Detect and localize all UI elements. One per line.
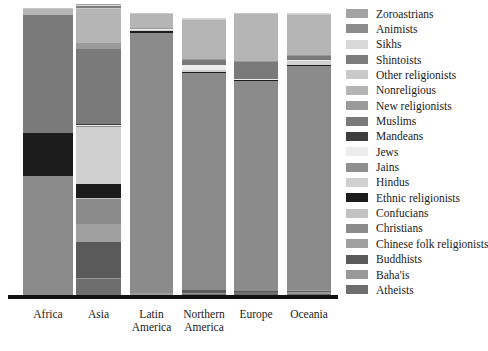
x-label-oceania: Oceania <box>279 308 339 321</box>
legend-swatch-icon <box>346 24 368 33</box>
legend-label: Chinese folk religionists <box>376 238 488 250</box>
segment-christians <box>182 73 226 290</box>
legend-label: Jews <box>376 146 398 158</box>
legend-swatch-icon <box>346 147 368 156</box>
segment-christians <box>287 66 331 290</box>
legend-item-christians[interactable]: Christians <box>344 221 423 236</box>
segment-nonreligious <box>130 14 173 28</box>
legend-swatch-icon <box>346 270 368 279</box>
legend-label: Christians <box>376 222 423 234</box>
legend-label: Confucians <box>376 207 428 219</box>
legend-item-new-religionists[interactable]: New religionists <box>344 98 452 113</box>
legend-label: Shintoists <box>376 54 421 66</box>
legend-swatch-icon <box>346 193 368 202</box>
legend-label: Baha'is <box>376 269 409 281</box>
legend-item-muslims[interactable]: Muslims <box>344 113 416 128</box>
legend-label: Zoroastrians <box>376 8 433 20</box>
segment-christians <box>234 81 278 291</box>
bar-asia <box>76 4 121 296</box>
segment-ethnic-religionists <box>76 184 121 199</box>
legend-item-chinese-folk-religionists[interactable]: Chinese folk religionists <box>344 236 488 251</box>
legend-swatch-icon <box>346 117 368 126</box>
legend-label: Jains <box>376 161 399 173</box>
chart-legend: ZoroastriansAnimistsSikhsShintoistsOther… <box>344 0 484 351</box>
bars-container <box>0 0 340 296</box>
legend-label: Buddhists <box>376 253 422 265</box>
legend-swatch-icon <box>346 70 368 79</box>
legend-label: New religionists <box>376 100 452 112</box>
legend-label: Muslims <box>376 115 416 127</box>
legend-item-jains[interactable]: Jains <box>344 160 399 175</box>
legend-label: Ethnic religionists <box>376 192 460 204</box>
segment-nonreligious <box>182 20 226 59</box>
legend-label: Nonreligious <box>376 84 436 96</box>
legend-swatch-icon <box>346 285 368 294</box>
legend-swatch-icon <box>346 224 368 233</box>
segment-buddhists <box>76 242 121 279</box>
x-label-asia: Asia <box>68 308 129 321</box>
legend-swatch-icon <box>346 209 368 218</box>
legend-item-animists[interactable]: Animists <box>344 21 418 36</box>
segment-hindus <box>76 127 121 184</box>
bar-africa <box>23 8 73 296</box>
segment-nonreligious <box>287 15 331 55</box>
x-label-northern-america: NorthernAmerica <box>174 308 234 334</box>
bar-northern-america <box>182 18 226 296</box>
segment-ethnic-religionists <box>23 133 73 176</box>
legend-label: Sikhs <box>376 38 402 50</box>
legend-label: Animists <box>376 23 418 35</box>
legend-item-sikhs[interactable]: Sikhs <box>344 37 402 52</box>
segment-christians <box>130 33 173 293</box>
legend-item-hindus[interactable]: Hindus <box>344 175 409 190</box>
legend-item-ethnic-religionists[interactable]: Ethnic religionists <box>344 190 460 205</box>
segment-muslims <box>23 15 73 133</box>
segment-chinese-folk-religionists <box>76 224 121 242</box>
legend-item-atheists[interactable]: Atheists <box>344 282 414 297</box>
legend-item-zoroastrians[interactable]: Zoroastrians <box>344 6 433 21</box>
x-axis-labels: AfricaAsiaLatinAmericaNorthernAmericaEur… <box>0 302 340 350</box>
plot-area: AfricaAsiaLatinAmericaNorthernAmericaEur… <box>0 0 340 351</box>
segment-christians <box>76 199 121 224</box>
legend-item-other-religionists[interactable]: Other religionists <box>344 67 456 82</box>
x-axis-baseline <box>8 295 338 299</box>
x-label-europe: Europe <box>226 308 286 321</box>
bar-europe <box>234 13 278 296</box>
legend-swatch-icon <box>346 101 368 110</box>
bar-oceania <box>287 13 331 296</box>
legend-swatch-icon <box>346 163 368 172</box>
legend-swatch-icon <box>346 40 368 49</box>
legend-swatch-icon <box>346 55 368 64</box>
legend-item-baha-is[interactable]: Baha'is <box>344 267 409 282</box>
legend-item-buddhists[interactable]: Buddhists <box>344 252 422 267</box>
segment-atheists <box>76 279 121 295</box>
legend-label: Atheists <box>376 284 414 296</box>
legend-swatch-icon <box>346 86 368 95</box>
segment-muslims <box>76 49 121 124</box>
segment-nonreligious <box>76 9 121 43</box>
legend-item-nonreligious[interactable]: Nonreligious <box>344 83 436 98</box>
legend-label: Hindus <box>376 176 409 188</box>
segment-christians <box>23 176 73 294</box>
legend-label: Other religionists <box>376 69 456 81</box>
legend-item-confucians[interactable]: Confucians <box>344 206 428 221</box>
legend-swatch-icon <box>346 255 368 264</box>
x-label-latin-america: LatinAmerica <box>122 308 181 334</box>
legend-swatch-icon <box>346 239 368 248</box>
segment-muslims <box>234 62 278 79</box>
legend-swatch-icon <box>346 9 368 18</box>
bar-latin-america <box>130 13 173 296</box>
legend-item-jews[interactable]: Jews <box>344 144 398 159</box>
legend-item-mandeans[interactable]: Mandeans <box>344 129 423 144</box>
segment-nonreligious <box>234 14 278 61</box>
legend-swatch-icon <box>346 178 368 187</box>
legend-label: Mandeans <box>376 130 423 142</box>
legend-item-shintoists[interactable]: Shintoists <box>344 52 421 67</box>
legend-swatch-icon <box>346 132 368 141</box>
